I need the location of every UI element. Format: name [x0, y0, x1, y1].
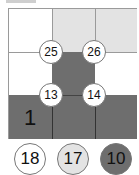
- vertex-circle: 25: [39, 40, 63, 64]
- grid-3x3: 1: [8, 8, 137, 139]
- legend-white: 18: [14, 143, 46, 175]
- vertex-circle: 26: [82, 40, 106, 64]
- vertex-circle: 14: [82, 83, 106, 107]
- cropped-header-text: [6, 0, 36, 3]
- region-label: 1: [24, 105, 36, 131]
- vertex-circle: 13: [39, 83, 63, 107]
- legend-light: 17: [57, 143, 89, 175]
- legend-dark: 10: [100, 143, 132, 175]
